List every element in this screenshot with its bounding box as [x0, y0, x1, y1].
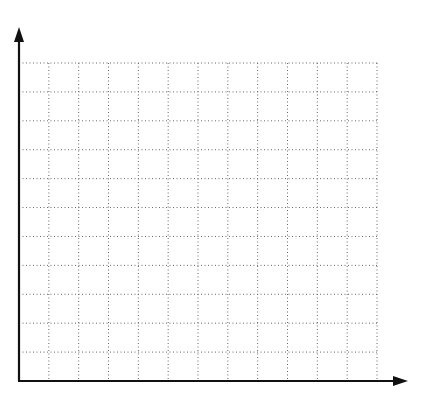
y-axis-arrow-icon: [14, 27, 24, 42]
x-axis: [18, 376, 408, 386]
x-axis-arrow-icon: [393, 376, 408, 386]
dotted-grid: [19, 63, 377, 381]
blank-coordinate-grid: [0, 0, 433, 401]
y-axis: [14, 27, 24, 381]
